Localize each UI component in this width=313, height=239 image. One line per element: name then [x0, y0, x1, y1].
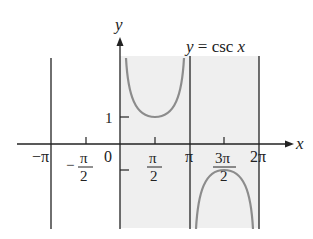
y-axis-arrow-icon: [117, 37, 124, 46]
y-axis-label: y: [113, 15, 123, 34]
x-tick-label-neg-half-pi-den: 2: [80, 168, 88, 184]
x-tick-label-zero: 0: [104, 148, 112, 165]
x-tick-label-three-half-pi-den: 2: [220, 168, 228, 184]
x-tick-label-two-pi: 2π: [250, 148, 266, 165]
x-tick-label-neg-half-pi-sign: −: [66, 157, 74, 173]
x-tick-label-pi: π: [185, 148, 193, 165]
x-axis-label: x: [295, 134, 304, 153]
x-tick-label-neg-pi: −π: [32, 148, 49, 165]
x-axis-arrow-icon: [285, 141, 294, 148]
chart-title: y = csc x: [184, 37, 246, 56]
y-tick-label-one: 1: [105, 110, 113, 126]
x-tick-label-half-pi-num: π: [149, 150, 157, 166]
x-tick-label-neg-half-pi-num: π: [80, 150, 88, 166]
x-tick-label-half-pi-den: 2: [150, 168, 158, 184]
csc-graph: y = csc x y x 1 −π − π 2 0 π 2 π 3π 2 2π: [0, 0, 313, 239]
x-tick-label-three-half-pi-num: 3π: [215, 150, 231, 166]
